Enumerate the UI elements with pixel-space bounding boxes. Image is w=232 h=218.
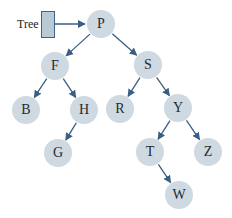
edge-p-f-arrow [66,34,90,56]
tree-pointer-box [41,11,55,38]
edge-h-g-arrow [66,123,76,140]
tree-pointer-label: Tree [17,17,39,32]
edge-t-w-arrow [158,164,170,182]
tree-node-g: G [44,139,72,167]
tree-node-h: H [70,96,98,124]
tree-node-f: F [41,52,69,80]
edge-y-t-arrow [158,121,170,140]
tree-node-s: S [134,51,162,79]
edge-p-s-arrow [112,34,136,55]
edge-y-z-arrow [186,120,199,139]
tree-node-b: B [12,96,40,124]
edge-f-b-arrow [34,79,46,98]
edge-s-r-arrow [128,78,140,97]
tree-node-z: Z [194,138,222,166]
tree-node-y: Y [164,94,192,122]
tree-node-p: P [87,10,115,38]
edge-s-y-arrow [157,77,170,95]
tree-node-w: W [165,181,193,209]
tree-node-r: R [106,95,134,123]
edge-f-h-arrow [63,79,75,98]
tree-node-t: T [136,138,164,166]
